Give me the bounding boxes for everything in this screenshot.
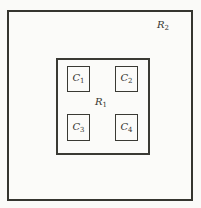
outer-region-label: R2 bbox=[157, 20, 169, 32]
cell-c1-label-main: C bbox=[72, 72, 80, 83]
outer-region-label-sub: 2 bbox=[165, 24, 169, 32]
cell-c4: C4 bbox=[115, 114, 138, 141]
cell-c2-label-sub: 2 bbox=[128, 77, 132, 85]
cell-c3-label-main: C bbox=[72, 121, 80, 132]
cell-c3: C3 bbox=[67, 114, 90, 141]
cell-c1: C1 bbox=[67, 66, 90, 92]
cell-c1-label: C1 bbox=[72, 73, 84, 85]
cell-c4-label: C4 bbox=[120, 122, 132, 134]
cell-c2-label-main: C bbox=[120, 72, 128, 83]
inner-region-label-main: R bbox=[95, 96, 103, 107]
inner-region-label: R1 bbox=[95, 97, 107, 109]
cell-c3-label: C3 bbox=[72, 122, 84, 134]
cell-c1-label-sub: 1 bbox=[80, 77, 84, 85]
inner-region-label-sub: 1 bbox=[103, 101, 107, 109]
cell-c4-label-main: C bbox=[120, 121, 128, 132]
cell-c3-label-sub: 3 bbox=[80, 126, 84, 134]
inner-region-r1: R1 C1 C2 C3 C4 bbox=[56, 58, 150, 155]
cell-c2-label: C2 bbox=[120, 73, 132, 85]
cell-c2: C2 bbox=[115, 66, 138, 92]
outer-region-label-main: R bbox=[157, 19, 165, 30]
nested-regions-diagram: R2 R1 C1 C2 C3 C4 bbox=[0, 0, 201, 208]
outer-region-r2: R2 R1 C1 C2 C3 C4 bbox=[7, 10, 193, 201]
cell-c4-label-sub: 4 bbox=[128, 126, 132, 134]
